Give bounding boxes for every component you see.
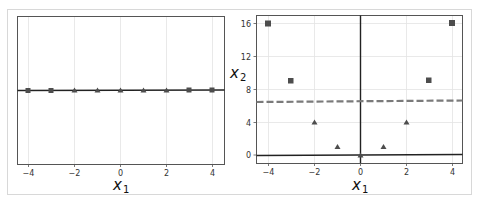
left-xtick-label: −2 xyxy=(69,169,81,178)
right-ytick-label: 12 xyxy=(241,53,251,62)
left-xlabel-subscript: 1 xyxy=(123,184,129,195)
right-xlabel-subscript: 1 xyxy=(362,184,368,195)
right-ytick-label: 16 xyxy=(241,20,251,29)
right-xtick-label: −4 xyxy=(263,168,275,177)
right-ylabel-subscript: 2 xyxy=(240,72,246,83)
left-xtick-label: −4 xyxy=(23,169,35,178)
right-xtick-label: −2 xyxy=(309,168,321,177)
right-ylabel: x xyxy=(229,64,239,82)
right-xtick-label: 4 xyxy=(450,168,455,177)
right-xlabel: x xyxy=(351,176,361,194)
right-xtick-label: 2 xyxy=(404,168,409,177)
figure: −4 −2 0 2 4 x 1 xyxy=(0,0,477,201)
right-plot: −4 −2 0 2 4 0 4 8 12 16 x 1 x 2 xyxy=(229,15,463,195)
right-ytick-label: 8 xyxy=(246,86,251,95)
right-grid xyxy=(256,15,462,163)
left-xlabel: x xyxy=(112,176,122,194)
right-ytick-label: 0 xyxy=(246,151,251,160)
left-xtick-label: 4 xyxy=(210,169,215,178)
left-xtick-label: 2 xyxy=(164,169,169,178)
decision-boundary-line xyxy=(257,101,463,103)
left-plot: −4 −2 0 2 4 x 1 xyxy=(18,16,225,195)
right-ytick-label: 4 xyxy=(246,119,251,128)
